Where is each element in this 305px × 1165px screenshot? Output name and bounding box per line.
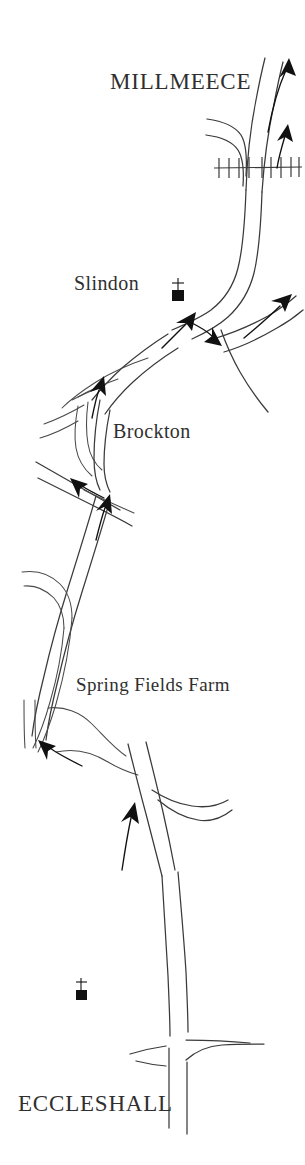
map-drawing	[0, 0, 305, 1165]
road-fork-east	[128, 742, 232, 876]
direction-arrow-eccleshall-north	[121, 802, 139, 870]
route-map: MILLMEECE Slindon Brockton Spring Fields…	[0, 0, 305, 1165]
railway-line	[214, 157, 302, 178]
road-slindon-southeast	[221, 330, 268, 412]
road-springfields-access	[48, 708, 138, 775]
road-slindon-to-brockton	[62, 334, 178, 414]
road-millmeece-north	[246, 58, 283, 192]
map-label-millmeece: MILLMEECE	[110, 70, 251, 93]
church-symbol-eccleshall	[76, 978, 87, 1000]
road-millmeece-to-slindon	[172, 190, 262, 339]
road-brockton-main	[94, 400, 110, 492]
map-label-brockton: Brockton	[113, 421, 191, 441]
direction-arrow-millmeece-north-west	[268, 58, 296, 132]
road-millmeece-west-spur	[206, 119, 246, 186]
road-brockton-west-branch	[36, 462, 134, 526]
map-label-spring-fields-farm: Spring Fields Farm	[76, 675, 230, 694]
road-brockton-loop	[40, 389, 102, 476]
eccleshall-crossroads	[130, 1040, 264, 1134]
direction-arrow-slindon-northwest	[162, 312, 196, 348]
road-to-eccleshall	[162, 872, 188, 1036]
direction-arrow-springfields-northwest	[38, 740, 82, 766]
church-symbol-slindon	[172, 278, 184, 301]
map-label-eccleshall: ECCLESHALL	[18, 1092, 173, 1115]
map-label-slindon: Slindon	[74, 273, 139, 293]
